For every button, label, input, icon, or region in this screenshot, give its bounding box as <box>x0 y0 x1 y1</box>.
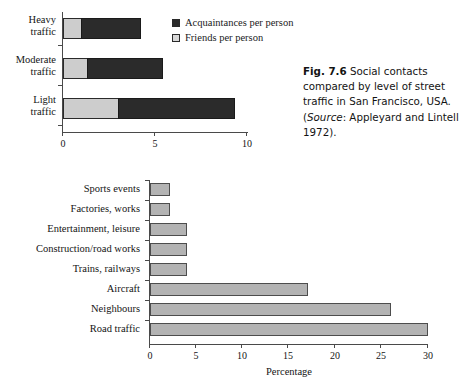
figure-caption-source-word: Source <box>307 111 343 123</box>
top-chart-y-tick-3 <box>58 125 63 126</box>
figure-page: Heavy traffic Moderate traffic Light tra… <box>0 0 467 384</box>
y-label-road-traffic: Road traffic <box>0 323 140 335</box>
bar-aircraft[interactable] <box>150 283 308 296</box>
bottom-chart-x-tick-25 <box>380 344 381 348</box>
y-label-heavy-traffic: Heavy traffic <box>0 14 56 37</box>
bar-neighbours[interactable] <box>150 303 391 316</box>
bottom-chart-x-tick-30 <box>427 344 428 348</box>
top-chart-x-axis-line <box>62 132 248 133</box>
top-chart-y-tick-2 <box>58 85 63 86</box>
bottom-chart-x-tick-20 <box>334 344 335 348</box>
bottom-chart-y-tick-3 <box>145 240 150 241</box>
stacked-bar-chart-social-contacts: Heavy traffic Moderate traffic Light tra… <box>0 0 300 152</box>
y-label-moderate-traffic: Moderate traffic <box>0 54 56 77</box>
bar-moderate-traffic[interactable] <box>63 58 163 79</box>
bar-construction-road-works[interactable] <box>150 243 187 256</box>
bottom-chart-plot-area: 0 5 10 15 20 25 30 <box>150 180 428 344</box>
bar-segment-friends-heavy <box>63 18 82 39</box>
top-chart-x-tick-5 <box>154 132 155 136</box>
y-label-light-traffic: Light traffic <box>0 94 56 117</box>
y-label-construction-road-works: Construction/road works <box>0 243 140 255</box>
top-chart-x-tick-10 <box>246 132 247 136</box>
bottom-chart-x-tick-label-25: 25 <box>376 350 386 361</box>
bottom-chart-y-axis-labels: Sports events Factories, works Entertain… <box>0 180 146 344</box>
y-label-entertainment-leisure: Entertainment, leisure <box>0 223 140 235</box>
bar-sports-events[interactable] <box>150 183 170 196</box>
top-chart-x-tick-label-10: 10 <box>242 138 252 149</box>
figure-caption-label: Fig. 7.6 <box>303 65 347 77</box>
bottom-chart-y-tick-4 <box>145 260 150 261</box>
bottom-chart-x-tick-10 <box>241 344 242 348</box>
bottom-chart-y-tick-5 <box>145 280 150 281</box>
bar-segment-acquaintances-light <box>118 98 235 119</box>
bar-entertainment-leisure[interactable] <box>150 223 187 236</box>
top-chart-y-axis-labels: Heavy traffic Moderate traffic Light tra… <box>0 10 58 130</box>
bar-segment-acquaintances-moderate <box>87 58 163 79</box>
y-label-sports-events: Sports events <box>0 183 140 195</box>
y-label-trains-railways: Trains, railways <box>0 263 140 275</box>
legend-item-friends[interactable]: Friends per person <box>172 30 293 45</box>
bottom-chart-y-tick-7 <box>145 320 150 321</box>
bar-segment-acquaintances-heavy <box>81 18 141 39</box>
bottom-chart-x-axis-title: Percentage <box>150 366 428 377</box>
bottom-chart-x-axis-line <box>149 344 428 345</box>
bottom-chart-y-tick-1 <box>145 200 150 201</box>
bar-heavy-traffic[interactable] <box>63 18 141 39</box>
top-chart-x-tick-0 <box>62 132 63 136</box>
legend-label-friends: Friends per person <box>185 30 263 45</box>
bar-road-traffic[interactable] <box>150 323 428 336</box>
bottom-chart-y-tick-0 <box>145 180 150 181</box>
bottom-chart-x-tick-0 <box>149 344 150 348</box>
bar-trains-railways[interactable] <box>150 263 187 276</box>
bottom-chart-y-tick-6 <box>145 300 150 301</box>
bar-segment-friends-light <box>63 98 119 119</box>
bottom-chart-x-tick-label-20: 20 <box>330 350 340 361</box>
bottom-chart-x-tick-label-5: 5 <box>194 350 199 361</box>
bottom-chart-x-tick-5 <box>195 344 196 348</box>
bar-segment-friends-moderate <box>63 58 88 79</box>
bar-chart-noise-nuisance: Sports events Factories, works Entertain… <box>0 180 467 384</box>
bottom-chart-x-tick-15 <box>287 344 288 348</box>
bottom-chart-x-tick-label-10: 10 <box>237 350 247 361</box>
top-chart-x-tick-label-5: 5 <box>153 138 158 149</box>
bar-factories-works[interactable] <box>150 203 170 216</box>
y-label-neighbours: Neighbours <box>0 303 140 315</box>
bar-light-traffic[interactable] <box>63 98 235 119</box>
bottom-chart-x-tick-label-15: 15 <box>283 350 293 361</box>
top-chart-y-tick-1 <box>58 45 63 46</box>
bottom-chart-y-tick-2 <box>145 220 150 221</box>
legend-swatch-friends-icon <box>172 34 180 42</box>
y-label-aircraft: Aircraft <box>0 283 140 295</box>
legend-swatch-acquaintances-icon <box>172 19 180 27</box>
top-chart-legend: Acquaintances per person Friends per per… <box>172 15 293 45</box>
figure-caption: Fig. 7.6 Social contacts compared by lev… <box>303 64 467 140</box>
y-label-factories-works: Factories, works <box>0 203 140 215</box>
legend-item-acquaintances[interactable]: Acquaintances per person <box>172 15 293 30</box>
bottom-chart-x-tick-label-30: 30 <box>423 350 433 361</box>
bottom-chart-x-tick-label-0: 0 <box>148 350 153 361</box>
top-chart-x-tick-label-0: 0 <box>61 138 66 149</box>
legend-label-acquaintances: Acquaintances per person <box>185 15 293 30</box>
